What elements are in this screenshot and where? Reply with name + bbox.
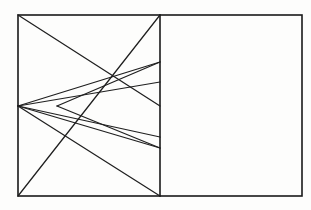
diagram-root xyxy=(0,0,311,210)
line-diagram-canvas xyxy=(0,0,311,210)
canvas-background xyxy=(0,0,311,210)
